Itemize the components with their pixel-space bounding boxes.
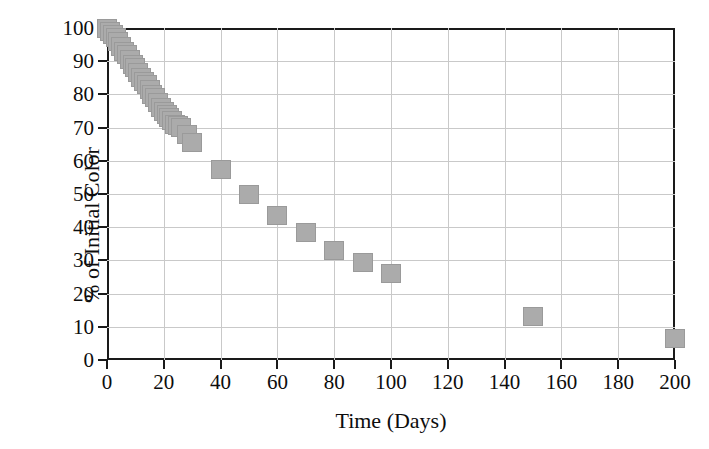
gridline-vertical <box>164 28 165 360</box>
x-tick-label: 200 <box>659 372 691 393</box>
y-tick-label: 70 <box>73 117 94 138</box>
data-point <box>353 253 373 272</box>
y-tick-label: 20 <box>73 283 94 304</box>
x-tick-label: 60 <box>267 372 288 393</box>
x-tick-label: 80 <box>324 372 345 393</box>
data-point <box>324 241 344 260</box>
y-tick-mark <box>98 193 107 195</box>
y-tick-mark <box>98 160 107 162</box>
gridline-vertical <box>505 28 506 360</box>
x-tick-mark <box>220 360 222 369</box>
x-tick-label: 180 <box>602 372 634 393</box>
y-tick-label: 10 <box>73 316 94 337</box>
data-point <box>523 307 543 326</box>
y-tick-mark <box>98 127 107 129</box>
y-tick-label: 30 <box>73 250 94 271</box>
data-point <box>381 264 401 283</box>
chart-figure: % of Initial Color Time (Days) 010203040… <box>0 0 709 449</box>
x-tick-label: 40 <box>210 372 231 393</box>
y-tick-mark <box>98 259 107 261</box>
x-axis-title: Time (Days) <box>107 408 675 434</box>
x-tick-mark <box>333 360 335 369</box>
x-tick-label: 100 <box>375 372 407 393</box>
y-tick-mark <box>98 293 107 295</box>
x-tick-mark <box>504 360 506 369</box>
gridline-vertical <box>277 28 278 360</box>
x-tick-label: 140 <box>489 372 521 393</box>
gridline-vertical <box>334 28 335 360</box>
gridline-vertical <box>618 28 619 360</box>
data-point <box>239 185 259 204</box>
x-tick-mark <box>560 360 562 369</box>
gridline-vertical <box>448 28 449 360</box>
x-tick-mark <box>447 360 449 369</box>
data-point <box>267 206 287 225</box>
plot-area: 0102030405060708090100 02040608010012014… <box>107 28 675 360</box>
y-tick-label: 80 <box>73 84 94 105</box>
x-tick-label: 160 <box>546 372 578 393</box>
data-point <box>211 160 231 179</box>
x-tick-mark <box>106 360 108 369</box>
y-tick-mark <box>98 93 107 95</box>
data-point <box>665 329 685 348</box>
x-tick-mark <box>390 360 392 369</box>
data-point <box>182 133 202 152</box>
y-tick-label: 50 <box>73 184 94 205</box>
x-tick-label: 20 <box>153 372 174 393</box>
y-tick-label: 60 <box>73 150 94 171</box>
y-tick-label: 0 <box>84 350 95 371</box>
x-tick-mark <box>276 360 278 369</box>
y-tick-mark <box>98 326 107 328</box>
gridline-vertical <box>391 28 392 360</box>
x-tick-mark <box>617 360 619 369</box>
y-tick-mark <box>98 226 107 228</box>
gridline-vertical <box>221 28 222 360</box>
gridline-vertical <box>561 28 562 360</box>
x-tick-mark <box>163 360 165 369</box>
data-point <box>296 223 316 242</box>
x-tick-label: 120 <box>432 372 464 393</box>
x-tick-label: 0 <box>102 372 113 393</box>
y-tick-mark <box>98 60 107 62</box>
x-tick-mark <box>674 360 676 369</box>
y-tick-label: 90 <box>73 51 94 72</box>
y-tick-label: 40 <box>73 217 94 238</box>
y-tick-label: 100 <box>63 18 95 39</box>
